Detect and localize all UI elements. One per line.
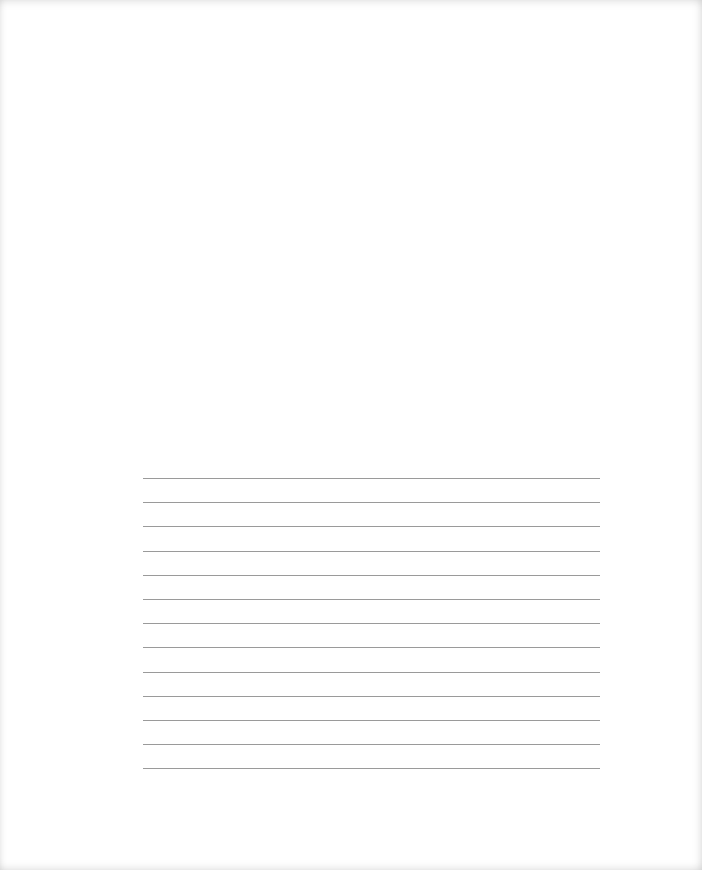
ruled-line [143,672,600,673]
ruled-line [143,551,600,552]
ruled-line [143,575,600,576]
ruled-line [143,623,600,624]
ruled-line [143,502,600,503]
ruled-line [143,744,600,745]
ruled-line [143,599,600,600]
ruled-line [143,647,600,648]
ruled-line [143,478,600,479]
blank-ruled-page [0,0,702,870]
ruled-line [143,696,600,697]
ruled-line [143,768,600,769]
ruled-line [143,720,600,721]
ruled-line [143,526,600,527]
